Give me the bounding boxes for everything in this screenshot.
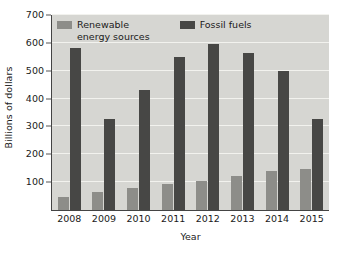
chart-legend: Renewable energy sources Fossil fuels <box>57 19 252 42</box>
bar-group <box>260 15 295 210</box>
y-axis-tick-label: 500 <box>16 66 44 76</box>
bar-renewable <box>231 176 242 210</box>
bar-group <box>294 15 329 210</box>
bars-layer <box>52 15 329 210</box>
y-axis-tick-label: 400 <box>16 94 44 104</box>
bar-group <box>52 15 87 210</box>
y-axis-title-text: Billions of dollars <box>4 67 15 149</box>
legend-label-renewable: Renewable energy sources <box>77 19 150 42</box>
bar-renewable <box>58 197 69 210</box>
y-axis-tick-label: 300 <box>16 122 44 132</box>
bar-renewable <box>127 188 138 210</box>
bar-group <box>225 15 260 210</box>
y-axis-tick-label: 600 <box>16 38 44 48</box>
bar-fossil <box>174 57 185 210</box>
bar-group <box>191 15 226 210</box>
x-axis-tick-label: 2012 <box>191 213 226 224</box>
x-axis-tick-label: 2009 <box>87 213 122 224</box>
bar-fossil <box>104 119 115 210</box>
bar-fossil <box>208 44 219 210</box>
legend-label-fossil: Fossil fuels <box>200 19 252 31</box>
bar-group <box>87 15 122 210</box>
y-axis-tick-labels: 700600500400300200100 <box>16 15 44 211</box>
bar-fossil <box>139 90 150 210</box>
legend-swatch-renewable-icon <box>57 21 72 29</box>
x-axis-tick-label: 2011 <box>156 213 191 224</box>
y-axis-tick-label: 700 <box>16 10 44 20</box>
x-axis-tick-label: 2015 <box>294 213 329 224</box>
legend-entry-fossil: Fossil fuels <box>180 19 252 31</box>
x-axis-line <box>51 210 329 211</box>
bar-renewable <box>162 184 173 210</box>
bar-fossil <box>243 53 254 210</box>
legend-entry-renewable: Renewable energy sources <box>57 19 150 42</box>
x-axis-tick-labels: 20082009201020112012201320142015 <box>52 213 329 227</box>
y-axis-tick-label: 100 <box>16 177 44 187</box>
bar-renewable <box>92 192 103 210</box>
y-axis-tick-label: 200 <box>16 150 44 160</box>
bar-fossil <box>278 71 289 210</box>
bar-fossil <box>312 119 323 210</box>
bar-group <box>156 15 191 210</box>
bar-group <box>121 15 156 210</box>
bar-fossil <box>70 48 81 210</box>
x-axis-tick-label: 2013 <box>225 213 260 224</box>
x-axis-tick-label: 2010 <box>121 213 156 224</box>
legend-swatch-fossil-icon <box>180 21 195 29</box>
x-axis-tick-label: 2014 <box>260 213 295 224</box>
bar-renewable <box>300 169 311 210</box>
plot-area <box>52 15 329 210</box>
x-axis-tick-label: 2008 <box>52 213 87 224</box>
bar-chart-figure: Billions of dollars 70060050040030020010… <box>0 0 340 255</box>
bar-renewable <box>266 171 277 210</box>
x-axis-title: Year <box>52 231 329 242</box>
bar-renewable <box>196 181 207 210</box>
